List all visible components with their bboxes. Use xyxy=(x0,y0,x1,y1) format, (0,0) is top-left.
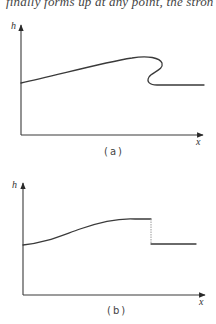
figure-b-smooth-curve xyxy=(23,219,151,245)
figure-a-h-label: h xyxy=(11,21,16,31)
figure-canvas xyxy=(0,0,216,324)
figure-b-caption: (b) xyxy=(107,306,127,316)
figure-b xyxy=(23,183,205,295)
figure-a xyxy=(21,25,204,135)
figure-a-x-label: x xyxy=(196,137,200,147)
figure-b-x-label: x xyxy=(199,297,203,307)
figure-b-h-label: h xyxy=(12,180,17,190)
figure-a-caption: (a) xyxy=(104,147,124,157)
figure-a-overturning-curve xyxy=(21,57,204,85)
